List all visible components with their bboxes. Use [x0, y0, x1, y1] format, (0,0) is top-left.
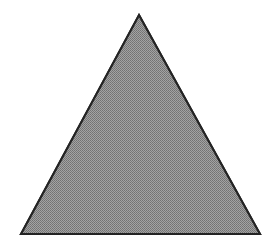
triangle-diagram-svg — [0, 0, 277, 237]
figure-canvas — [0, 0, 277, 237]
